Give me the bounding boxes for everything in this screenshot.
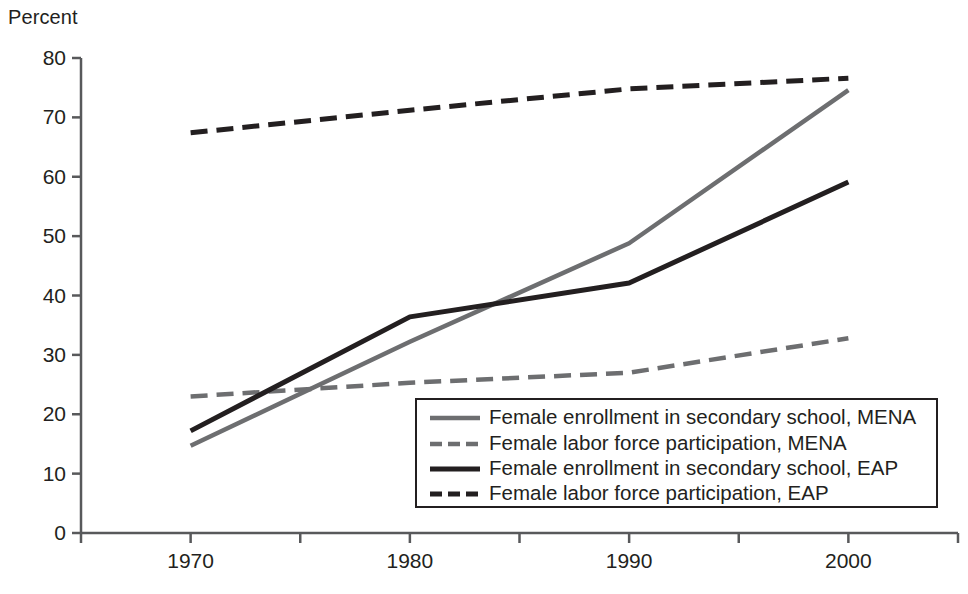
chart-legend: Female enrollment in secondary school, M… (415, 398, 938, 508)
series-line-1 (191, 338, 849, 396)
y-tick-label: 0 (10, 521, 66, 545)
legend-swatch-solid-gray-icon (429, 411, 481, 425)
series-lines (191, 78, 849, 446)
y-tick-label: 10 (10, 462, 66, 486)
legend-item-labor-eap: Female labor force participation, EAP (429, 481, 829, 506)
chart-container: Percent 01020304050607080 19701980199020… (0, 0, 968, 594)
x-tick-label: 1970 (146, 549, 236, 573)
x-axis-ticks (81, 533, 958, 543)
legend-swatch-dashed-gray-icon (429, 437, 481, 451)
y-tick-label: 40 (10, 284, 66, 308)
legend-label: Female enrollment in secondary school, M… (489, 407, 916, 428)
series-line-0 (191, 90, 849, 446)
legend-label: Female labor force participation, MENA (489, 433, 847, 454)
y-axis-ticks (72, 58, 81, 533)
y-tick-label: 50 (10, 224, 66, 248)
legend-swatch-solid-black-icon (429, 462, 481, 476)
series-line-2 (191, 182, 849, 431)
legend-item-enrollment-mena: Female enrollment in secondary school, M… (429, 405, 916, 430)
y-tick-label: 70 (10, 105, 66, 129)
y-tick-label: 30 (10, 343, 66, 367)
legend-label: Female enrollment in secondary school, E… (489, 458, 898, 479)
x-tick-label: 2000 (803, 549, 893, 573)
legend-label: Female labor force participation, EAP (489, 483, 829, 504)
legend-item-enrollment-eap: Female enrollment in secondary school, E… (429, 456, 898, 481)
x-tick-label: 1990 (584, 549, 674, 573)
series-line-3 (191, 78, 849, 133)
y-tick-label: 60 (10, 165, 66, 189)
y-tick-label: 80 (10, 46, 66, 70)
x-tick-label: 1980 (365, 549, 455, 573)
y-tick-label: 20 (10, 402, 66, 426)
legend-swatch-dashed-black-icon (429, 487, 481, 501)
legend-item-labor-mena: Female labor force participation, MENA (429, 431, 847, 456)
